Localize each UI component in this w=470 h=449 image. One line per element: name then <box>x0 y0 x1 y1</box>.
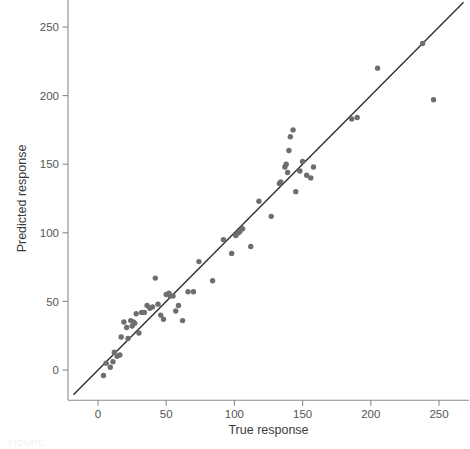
scatter-point <box>286 148 291 153</box>
scatter-point <box>132 321 137 326</box>
scatter-point <box>173 308 178 313</box>
scatter-point <box>196 259 201 264</box>
y-axis-tick-label: 250 <box>40 21 59 33</box>
y-axis-tick-label: 100 <box>40 227 59 239</box>
scatter-point <box>176 303 181 308</box>
scatter-point <box>125 336 130 341</box>
scatter-point <box>311 164 316 169</box>
scatter-point <box>256 199 261 204</box>
scatter-point <box>153 275 158 280</box>
scatter-point <box>269 214 274 219</box>
scatter-point <box>150 304 155 309</box>
scatter-point <box>297 168 302 173</box>
scatter-point <box>420 41 425 46</box>
scatter-point <box>288 134 293 139</box>
scatter-point <box>155 301 160 306</box>
y-axis-tick-label: 150 <box>40 158 59 170</box>
scatter-point <box>278 179 283 184</box>
scatter-point <box>142 310 147 315</box>
scatter-point <box>285 170 290 175</box>
y-axis-tick-label: 200 <box>40 90 59 102</box>
y-axis-tick-label: 50 <box>46 296 59 308</box>
figure-caption-fragment: FIGURE <box>8 438 44 448</box>
figure-root: 050100150200250050100150200250True respo… <box>0 0 470 449</box>
scatter-point <box>133 311 138 316</box>
scatter-point <box>110 359 115 364</box>
scatter-point <box>349 116 354 121</box>
scatter-point <box>101 373 106 378</box>
scatter-point <box>431 97 436 102</box>
scatter-point <box>293 189 298 194</box>
scatter-point <box>103 360 108 365</box>
x-axis-tick-label: 0 <box>95 408 101 420</box>
y-axis-title: Predicted response <box>15 145 29 253</box>
identity-reference-line <box>73 2 463 394</box>
scatter-point <box>240 226 245 231</box>
scatter-point-group <box>101 41 436 378</box>
scatter-point <box>375 65 380 70</box>
scatter-point <box>117 352 122 357</box>
x-axis-tick-label: 250 <box>429 408 448 420</box>
scatter-point <box>229 251 234 256</box>
scatter-point <box>221 237 226 242</box>
scatter-point <box>161 317 166 322</box>
scatter-plot: 050100150200250050100150200250True respo… <box>0 0 470 449</box>
scatter-point <box>124 325 129 330</box>
x-axis-title: True response <box>228 423 308 437</box>
x-axis-tick-label: 100 <box>225 408 244 420</box>
scatter-point <box>210 278 215 283</box>
scatter-point <box>300 159 305 164</box>
x-axis-tick-label: 150 <box>293 408 312 420</box>
scatter-point <box>118 334 123 339</box>
scatter-point <box>191 289 196 294</box>
scatter-point <box>136 330 141 335</box>
scatter-point <box>290 127 295 132</box>
x-axis-tick-label: 200 <box>361 408 380 420</box>
scatter-point <box>308 175 313 180</box>
y-axis-tick-label: 0 <box>53 364 59 376</box>
scatter-point <box>108 365 113 370</box>
x-axis-tick-label: 50 <box>160 408 173 420</box>
scatter-point <box>248 244 253 249</box>
scatter-point <box>180 318 185 323</box>
scatter-point <box>185 289 190 294</box>
scatter-point <box>121 319 126 324</box>
scatter-point <box>284 162 289 167</box>
scatter-point <box>354 115 359 120</box>
scatter-point <box>170 293 175 298</box>
